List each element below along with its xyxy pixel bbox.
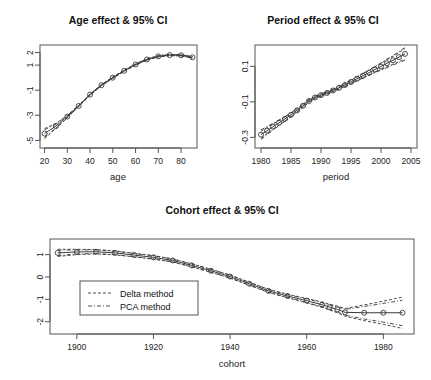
x-axis-label: period <box>323 171 349 182</box>
y-tick-label: 1 <box>25 62 35 67</box>
y-tick-label: -5 <box>25 136 35 144</box>
x-tick-label: 1920 <box>144 342 163 352</box>
ci-band-delta <box>45 56 193 139</box>
y-tick-label: -1 <box>25 86 35 94</box>
x-axis-label: age <box>110 171 126 182</box>
x-tick-label: 50 <box>108 156 118 166</box>
period-effect-plot: Period effect & 95% CI 0.1-0.1-0.3198019… <box>213 0 431 192</box>
period-effect-panel: Period effect & 95% CI 0.1-0.1-0.3198019… <box>213 0 431 192</box>
x-tick-label: 2000 <box>372 156 391 166</box>
cohort-plot-body: 10-1-219001920194019601980cohortDelta me… <box>35 239 414 369</box>
x-tick-label: 20 <box>40 156 50 166</box>
x-tick-label: 1985 <box>282 156 301 166</box>
age-effect-plot: Age effect & 95% CI 21-1-3-5203040506070… <box>0 0 213 192</box>
x-tick-label: 1995 <box>342 156 361 166</box>
y-tick-label: 0 <box>35 274 45 279</box>
period-plot-body: 0.1-0.1-0.3198019851990199520002005perio… <box>240 45 420 182</box>
x-axis-label: cohort <box>219 358 246 369</box>
x-tick-label: 80 <box>176 156 186 166</box>
x-tick-label: 60 <box>131 156 141 166</box>
age-plot-body: 21-1-3-520304050607080age <box>25 45 197 182</box>
ci-band-pca <box>45 56 193 138</box>
estimate-line <box>45 55 193 134</box>
x-tick-label: 2005 <box>402 156 421 166</box>
y-tick-label: -0.1 <box>240 94 250 109</box>
y-tick-label: 1 <box>35 252 45 257</box>
x-tick-label: 70 <box>154 156 164 166</box>
y-tick-label: -0.3 <box>240 130 250 145</box>
period-plot-title: Period effect & 95% CI <box>267 14 379 26</box>
x-tick-label: 1990 <box>312 156 331 166</box>
y-tick-label: 2 <box>25 50 35 55</box>
cohort-effect-panel: Cohort effect & 95% CI 10-1-219001920194… <box>0 192 431 380</box>
cohort-plot-title: Cohort effect & 95% CI <box>165 204 278 216</box>
y-tick-label: -1 <box>35 295 45 303</box>
x-tick-label: 1940 <box>221 342 240 352</box>
legend-label: PCA method <box>120 302 171 312</box>
x-tick-label: 30 <box>63 156 73 166</box>
cohort-effect-plot: Cohort effect & 95% CI 10-1-219001920194… <box>0 192 431 380</box>
age-effect-panel: Age effect & 95% CI 21-1-3-5203040506070… <box>0 0 213 192</box>
ci-band-delta <box>261 59 405 138</box>
y-tick-label: -2 <box>35 318 45 326</box>
age-plot-title: Age effect & 95% CI <box>69 14 168 26</box>
x-tick-label: 1900 <box>67 342 86 352</box>
x-tick-label: 1960 <box>297 342 316 352</box>
x-tick-label: 1980 <box>374 342 393 352</box>
ci-band-pca <box>261 60 405 139</box>
x-tick-label: 40 <box>85 156 95 166</box>
y-tick-label: -3 <box>25 111 35 119</box>
legend-label: Delta method <box>120 289 174 299</box>
y-tick-label: 0.1 <box>240 60 250 72</box>
x-tick-label: 1980 <box>252 156 271 166</box>
